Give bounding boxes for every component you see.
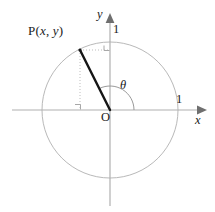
point-P-label-comma: , (46, 23, 53, 38)
x-axis-label: x (195, 114, 201, 127)
point-P-label-close: ) (59, 23, 64, 38)
theta-label: θ (120, 79, 126, 92)
point-P-marker (78, 48, 81, 51)
radius-segment-OP (80, 50, 110, 110)
origin-label: O (101, 111, 110, 124)
y-axis-label: y (97, 8, 103, 21)
point-P-label: P(x, y) (28, 24, 63, 37)
x-axis-tick-label-1: 1 (176, 93, 182, 106)
point-P-label-open: P( (28, 23, 40, 38)
y-axis-tick-label-1: 1 (113, 23, 119, 36)
unit-circle-figure: P(x, y) θ O y x 1 1 (0, 0, 215, 212)
